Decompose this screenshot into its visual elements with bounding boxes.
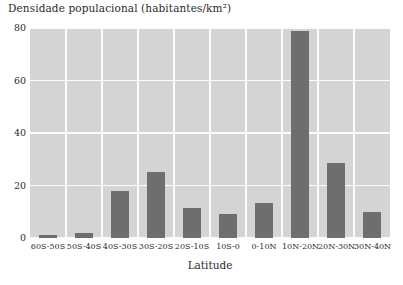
bar — [363, 212, 382, 238]
x-axis-tick-label: 20S-10S — [174, 241, 210, 252]
y-axis-tick-label: 20 — [14, 181, 26, 191]
x-axis-tick-label: 10N-20N — [282, 241, 318, 252]
bar — [147, 172, 166, 238]
bar-series — [30, 28, 390, 238]
x-axis-tick-labels: 60S-50S50S-40S40S-30S30S-20S20S-10S10S-0… — [30, 241, 390, 255]
x-axis-tick-label: 60S-50S — [30, 241, 66, 252]
y-axis-tick-labels: 020406080 — [0, 28, 26, 238]
x-axis-tick-label: 30N-40N — [354, 241, 390, 252]
y-axis-tick-label: 80 — [14, 23, 26, 33]
bar — [291, 31, 310, 238]
bar — [183, 208, 202, 238]
bar — [255, 203, 274, 238]
bar — [75, 233, 94, 238]
x-axis-tick-label: 50S-40S — [66, 241, 102, 252]
bar — [219, 214, 238, 238]
population-density-bar-chart: Densidade populacional (habitantes/km²) … — [0, 0, 403, 285]
x-axis-tick-label: 40S-30S — [102, 241, 138, 252]
y-axis-tick-label: 40 — [14, 128, 26, 138]
x-axis-tick-label: 10S-0 — [210, 241, 246, 252]
x-axis-tick-label: 30S-20S — [138, 241, 174, 252]
bar — [39, 235, 58, 238]
x-axis-tick-label: 20N-30N — [318, 241, 354, 252]
bar — [327, 163, 346, 238]
y-axis-tick-label: 60 — [14, 76, 26, 86]
bar — [111, 191, 130, 238]
chart-title: Densidade populacional (habitantes/km²) — [8, 2, 231, 14]
y-axis-tick-label: 0 — [20, 233, 26, 243]
x-axis-title: Latitude — [30, 259, 390, 271]
x-axis-tick-label: 0-10N — [246, 241, 282, 252]
